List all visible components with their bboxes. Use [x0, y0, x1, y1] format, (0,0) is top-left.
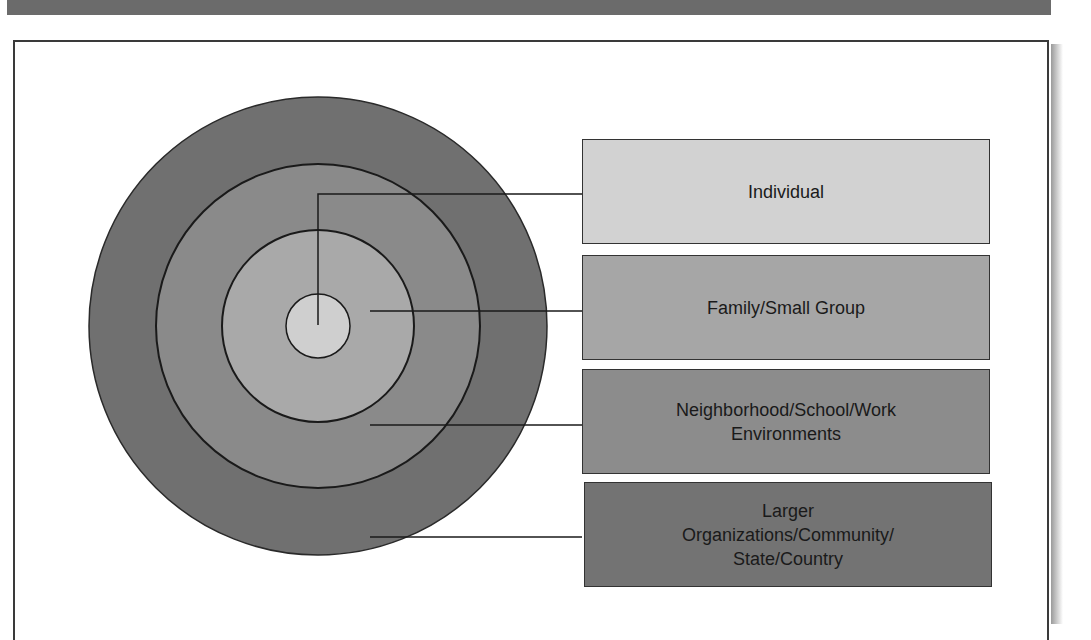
label-box-family: Family/Small Group	[582, 255, 990, 360]
label-larger: Larger Organizations/Community/ State/Co…	[680, 499, 896, 571]
label-box-individual: Individual	[582, 139, 990, 244]
label-neighborhood: Neighborhood/School/Work Environments	[673, 398, 899, 446]
label-box-neighborhood: Neighborhood/School/Work Environments	[582, 369, 990, 474]
label-box-larger: Larger Organizations/Community/ State/Co…	[584, 482, 992, 587]
label-family: Family/Small Group	[707, 296, 865, 320]
label-individual: Individual	[748, 180, 824, 204]
